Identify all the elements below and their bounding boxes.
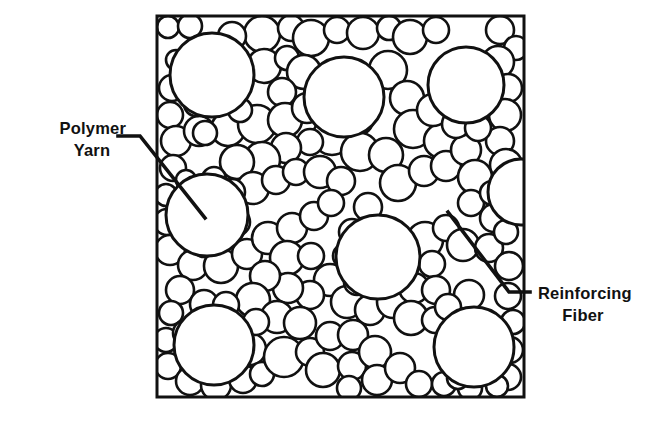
reinforcing-fiber-circle [393,20,427,54]
reinforcing-fiber-circle [268,78,296,106]
reinforcing-fiber-circle [495,283,521,309]
polymer-yarn-label-line1: Polymer [59,119,126,137]
polymer-yarn-circle [434,307,514,387]
reinforcing-fiber-circle [244,16,280,52]
reinforcing-fiber-circle [157,16,179,38]
reinforcing-fiber-circle [284,307,316,339]
reinforcing-fiber-circle [318,190,344,216]
reinforcing-fiber-label-line2: Fiber [562,306,604,324]
circle-packing-group [154,14,554,400]
reinforcing-fiber-circle [298,243,324,269]
polymer-yarn-circle [170,33,254,117]
polymer-yarn-circle [304,57,384,137]
reinforcing-fiber-circle [347,17,379,49]
polymer-yarn-circle [174,305,254,385]
reinforcing-fiber-label-line1: Reinforcing [538,284,632,302]
reinforcing-fiber-circle [193,121,217,145]
diagram-stage: Polymer Yarn Reinforcing Fiber [0,0,669,421]
polymer-yarn-circle [428,47,504,123]
polymer-yarn-label-line2: Yarn [74,141,111,159]
reinforcing-fiber-circle [157,102,183,128]
reinforcing-fiber-circle [419,251,445,277]
reinforcing-fiber-circle [495,252,523,280]
reinforcing-fiber-circle [423,17,449,43]
reinforcing-fiber-circle [406,371,432,397]
polymer-yarn-circle [336,215,420,299]
composite-cross-section-figure: Polymer Yarn Reinforcing Fiber [0,0,669,421]
reinforcing-fiber-circle [306,353,340,387]
